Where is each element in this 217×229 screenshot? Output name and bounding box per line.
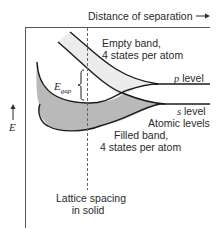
right-arrow-icon: [196, 14, 210, 19]
lattice-label-line1: Lattice spacing: [56, 192, 120, 204]
up-arrow-icon: [11, 104, 16, 120]
gap-subscript: gap: [61, 87, 72, 95]
y-axis-label: E: [9, 121, 16, 133]
filled-band-label-line2: 4 states per atom: [100, 141, 181, 153]
empty-band-label-line2: 4 states per atom: [102, 49, 183, 61]
gap-symbol: E: [54, 80, 61, 92]
empty-band-label-line1: Empty band,: [102, 37, 161, 49]
filled-band-label-line1: Filled band,: [114, 129, 168, 141]
gap-brace-icon: [78, 70, 84, 100]
x-axis-label: Distance of separation: [88, 10, 192, 22]
atomic-levels-label: Atomic levels: [148, 117, 210, 129]
p-level-word: level: [182, 72, 204, 84]
p-level-label: p level: [174, 72, 204, 85]
s-symbol: s: [177, 106, 181, 117]
p-symbol: p: [174, 73, 179, 84]
lattice-label-line2: in solid: [56, 204, 120, 216]
gap-label: Egap: [54, 80, 71, 97]
s-level-word: level: [184, 105, 206, 117]
